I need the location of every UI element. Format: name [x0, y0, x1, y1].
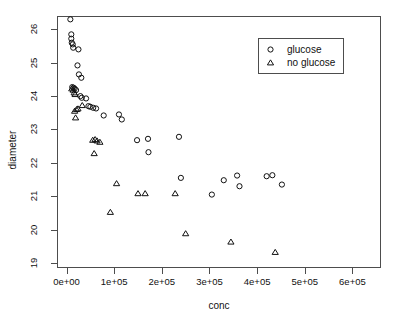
legend-label: no glucose	[287, 57, 335, 68]
y-tick-label: 23	[28, 124, 39, 135]
x-tick	[352, 268, 353, 274]
y-tick	[51, 230, 57, 231]
legend-item-circle: glucose	[265, 43, 335, 56]
legend-label: glucose	[287, 44, 321, 55]
x-tick	[114, 268, 115, 274]
x-tick-label: 1e+05	[101, 276, 128, 287]
x-tick	[305, 268, 306, 274]
y-tick-label: 21	[28, 191, 39, 202]
x-tick	[162, 268, 163, 274]
y-tick	[51, 29, 57, 30]
y-tick	[51, 63, 57, 64]
y-tick-label: 24	[28, 91, 39, 102]
scatter-plot: 0e+001e+052e+053e+054e+055e+056e+0519202…	[0, 0, 408, 325]
x-tick	[67, 268, 68, 274]
circle-icon	[265, 44, 287, 55]
y-tick-label: 19	[28, 258, 39, 269]
x-tick-label: 0e+00	[53, 276, 80, 287]
data-point-no-glucose	[267, 60, 273, 65]
y-tick-label: 25	[28, 57, 39, 68]
y-tick-label: 26	[28, 24, 39, 35]
y-axis-label: diameter	[7, 131, 18, 170]
x-tick	[209, 268, 210, 274]
y-tick	[51, 96, 57, 97]
y-tick	[51, 163, 57, 164]
x-axis-label: conc	[208, 300, 229, 311]
y-tick	[51, 129, 57, 130]
y-tick	[51, 196, 57, 197]
legend: glucoseno glucose	[258, 38, 344, 74]
y-tick	[51, 263, 57, 264]
y-tick-label: 20	[28, 224, 39, 235]
x-tick-label: 2e+05	[148, 276, 175, 287]
x-tick	[257, 268, 258, 274]
y-tick-label: 22	[28, 158, 39, 169]
x-tick-label: 6e+05	[339, 276, 366, 287]
x-tick-label: 5e+05	[291, 276, 318, 287]
legend-item-triangle: no glucose	[265, 56, 335, 69]
triangle-icon	[265, 57, 287, 68]
data-point-glucose	[268, 47, 273, 52]
x-tick-label: 4e+05	[244, 276, 271, 287]
x-tick-label: 3e+05	[196, 276, 223, 287]
